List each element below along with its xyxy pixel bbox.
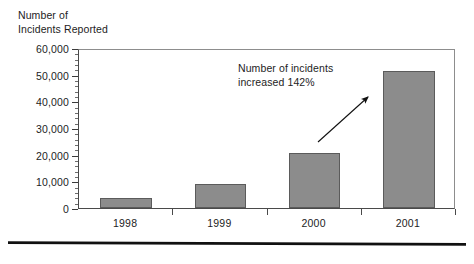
chart-annotation-text: Number of incidents increased 142% — [238, 62, 333, 89]
y-axis: 010,00020,00030,00040,00050,00060,000 — [0, 0, 78, 264]
bar-1998 — [100, 198, 151, 208]
y-axis-tick-label: 40,000 — [36, 97, 69, 108]
bottom-divider — [8, 240, 466, 248]
x-axis-tick — [361, 209, 362, 215]
x-axis-end-tick — [455, 209, 456, 215]
x-axis-label-2000: 2000 — [302, 217, 326, 229]
x-axis-tick — [267, 209, 268, 215]
x-axis-tick — [172, 209, 173, 215]
x-axis-label-2001: 2001 — [396, 217, 420, 229]
y-axis-tick-label: 30,000 — [36, 124, 69, 135]
y-axis-tick-label: 10,000 — [36, 177, 69, 188]
y-axis-tick-label: 20,000 — [36, 150, 69, 161]
y-axis-tick — [72, 209, 78, 210]
bar-2000 — [289, 153, 340, 208]
y-axis-tick-label: 60,000 — [36, 44, 69, 55]
bar-2001 — [383, 71, 434, 208]
x-axis-label-1998: 1998 — [113, 217, 137, 229]
bar-1999 — [195, 184, 246, 208]
y-axis-tick-label: 0 — [63, 204, 69, 215]
y-axis-tick-label: 50,000 — [36, 70, 69, 81]
x-axis-label-1999: 1999 — [207, 217, 231, 229]
